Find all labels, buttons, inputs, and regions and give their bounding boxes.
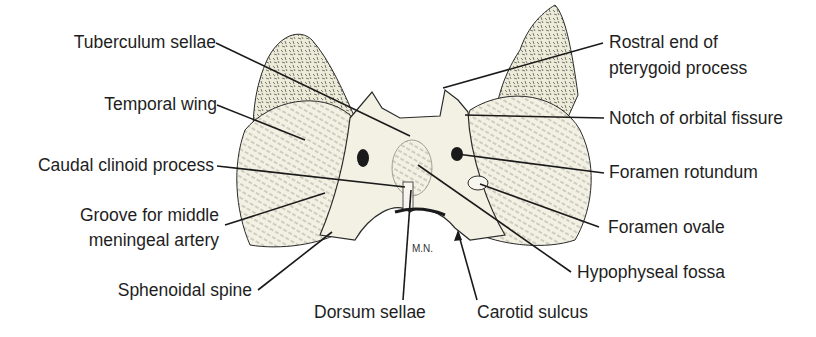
label-caudal-clinoid-process: Caudal clinoid process — [38, 155, 214, 176]
foramen-rotundum-left — [357, 149, 369, 167]
label-rostral-end-line1: Rostral end of — [609, 32, 718, 53]
label-groove-mma-line1: Groove for middle — [80, 205, 219, 226]
label-temporal-wing: Temporal wing — [104, 94, 217, 115]
label-groove-mma-line2: meningeal artery — [89, 230, 219, 251]
artist-signature: M.N. — [412, 243, 433, 254]
label-hypophyseal-fossa: Hypophyseal fossa — [577, 262, 725, 283]
label-tuberculum-sellae: Tuberculum sellae — [74, 32, 216, 53]
foramen-ovale-right — [468, 176, 488, 190]
label-sphenoidal-spine: Sphenoidal spine — [118, 280, 252, 301]
label-rostral-end-line2: pterygoid process — [609, 58, 747, 79]
leader-carotid-sulcus — [458, 232, 477, 300]
label-foramen-ovale: Foramen ovale — [608, 217, 725, 238]
label-carotid-sulcus: Carotid sulcus — [477, 302, 588, 323]
label-foramen-rotundum: Foramen rotundum — [609, 162, 758, 183]
label-notch-orbital-fissure: Notch of orbital fissure — [609, 108, 783, 129]
label-dorsum-sellae: Dorsum sellae — [314, 302, 426, 323]
